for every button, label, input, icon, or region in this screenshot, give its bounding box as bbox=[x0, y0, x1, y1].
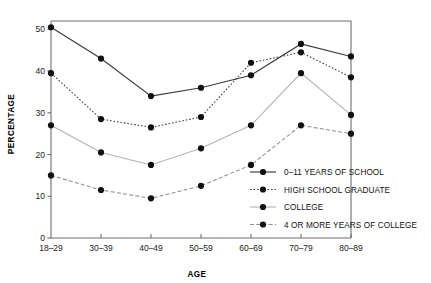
legend-label: 0–11 YEARS OF SCHOOL bbox=[284, 168, 384, 177]
legend-item-3[interactable]: 4 OR MORE YEARS OF COLLEGE bbox=[250, 221, 417, 230]
y-tick-label: 10 bbox=[36, 191, 46, 201]
x-tick-label: 80–89 bbox=[339, 243, 363, 253]
y-axis-title: PERCENTAGE bbox=[7, 94, 16, 154]
x-axis-title: AGE bbox=[188, 270, 207, 279]
data-point bbox=[298, 41, 304, 47]
y-tick-label: 40 bbox=[36, 66, 46, 76]
data-point bbox=[48, 172, 54, 178]
x-axis-ticks: 18–2930–3940–4950–5960–6970–7980–89 bbox=[39, 234, 363, 253]
chart-container: 01020304050 18–2930–3940–4950–5960–6970–… bbox=[0, 0, 431, 283]
data-point bbox=[248, 72, 254, 78]
x-tick-label: 18–29 bbox=[39, 243, 63, 253]
x-tick-label: 30–39 bbox=[89, 243, 113, 253]
data-point bbox=[148, 124, 154, 130]
x-tick-label: 70–79 bbox=[289, 243, 313, 253]
data-point bbox=[48, 70, 54, 76]
data-point bbox=[348, 53, 354, 59]
y-tick-label: 20 bbox=[36, 150, 46, 160]
legend-marker bbox=[260, 169, 266, 175]
y-tick-label: 0 bbox=[40, 233, 45, 243]
data-point bbox=[248, 122, 254, 128]
line-chart: 01020304050 18–2930–3940–4950–5960–6970–… bbox=[0, 0, 431, 283]
y-tick-label: 50 bbox=[36, 24, 46, 34]
data-point bbox=[248, 162, 254, 168]
legend-label: 4 OR MORE YEARS OF COLLEGE bbox=[284, 221, 417, 230]
x-tick-label: 40–49 bbox=[139, 243, 163, 253]
data-point bbox=[148, 162, 154, 168]
data-point bbox=[98, 187, 104, 193]
data-point bbox=[198, 183, 204, 189]
data-point bbox=[98, 55, 104, 61]
data-point bbox=[298, 49, 304, 55]
legend-label: COLLEGE bbox=[284, 203, 324, 212]
data-point bbox=[298, 122, 304, 128]
data-point bbox=[98, 149, 104, 155]
data-point bbox=[148, 195, 154, 201]
data-point bbox=[198, 114, 204, 120]
legend-marker bbox=[260, 204, 266, 210]
data-point bbox=[348, 131, 354, 137]
data-point bbox=[298, 70, 304, 76]
legend-item-1[interactable]: HIGH SCHOOL GRADUATE bbox=[250, 186, 391, 195]
legend-item-2[interactable]: COLLEGE bbox=[250, 203, 324, 212]
chart-legend: 0–11 YEARS OF SCHOOLHIGH SCHOOL GRADUATE… bbox=[250, 168, 417, 230]
data-point bbox=[248, 60, 254, 66]
data-point bbox=[148, 93, 154, 99]
data-point bbox=[198, 145, 204, 151]
x-tick-label: 60–69 bbox=[239, 243, 263, 253]
legend-label: HIGH SCHOOL GRADUATE bbox=[284, 186, 391, 195]
y-axis-ticks: 01020304050 bbox=[36, 24, 51, 243]
data-point bbox=[48, 122, 54, 128]
data-point bbox=[348, 74, 354, 80]
legend-item-0[interactable]: 0–11 YEARS OF SCHOOL bbox=[250, 168, 384, 177]
x-tick-label: 50–59 bbox=[189, 243, 213, 253]
data-point bbox=[98, 116, 104, 122]
series-0 bbox=[48, 24, 354, 99]
data-point bbox=[348, 112, 354, 118]
y-tick-label: 30 bbox=[36, 108, 46, 118]
data-point bbox=[48, 24, 54, 30]
legend-marker bbox=[260, 186, 266, 192]
data-point bbox=[198, 85, 204, 91]
legend-marker bbox=[260, 221, 266, 227]
